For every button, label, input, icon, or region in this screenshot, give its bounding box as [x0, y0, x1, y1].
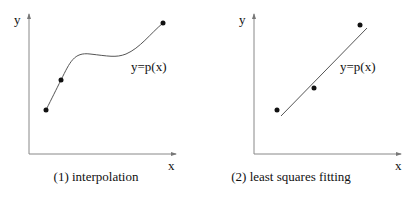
curve-label: y=p(x) — [340, 59, 376, 74]
data-point — [161, 21, 166, 26]
data-point — [59, 78, 64, 83]
y-axis-label: y — [239, 12, 246, 27]
y-axis-label: y — [14, 12, 21, 27]
panel-least-squares: y x y=p(x) (2) least squares fitting — [231, 12, 402, 184]
x-axis-label: x — [395, 158, 402, 173]
data-point — [44, 108, 49, 113]
figure: y x y=p(x) (1) interpolation y x y=p(x) … — [0, 0, 408, 197]
caption: (1) interpolation — [54, 169, 139, 184]
data-point — [312, 86, 317, 91]
data-point — [275, 108, 280, 113]
curve-label: y=p(x) — [131, 59, 167, 74]
data-point — [358, 23, 363, 28]
caption: (2) least squares fitting — [231, 169, 351, 184]
panel-interpolation: y x y=p(x) (1) interpolation — [14, 12, 176, 184]
x-axis-label: x — [168, 158, 175, 173]
